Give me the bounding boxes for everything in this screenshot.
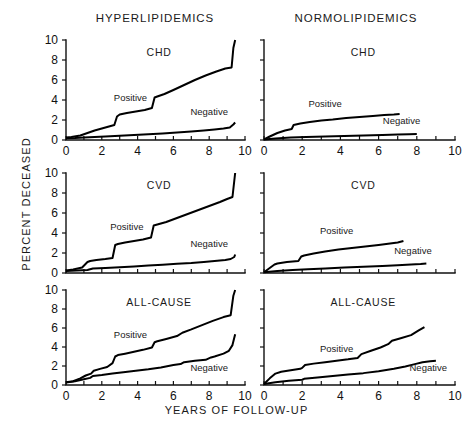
panel-title: ALL-CAUSE [126, 296, 192, 308]
y-tick-label: 6 [51, 321, 58, 335]
x-tick-label: 10 [448, 144, 462, 158]
x-tick-label: 8 [413, 389, 420, 403]
panel-hyperlipidemics-chd: 02468100246810CHDPositiveNegative [45, 33, 252, 158]
curve-negative [66, 334, 235, 382]
y-tick-label: 0 [51, 266, 58, 280]
curve-negative [66, 255, 235, 272]
x-tick-label: 6 [375, 389, 382, 403]
y-tick-label: 0 [51, 378, 58, 392]
x-tick-label: 2 [98, 389, 105, 403]
x-tick-label: 4 [134, 144, 141, 158]
series-label-positive: Positive [308, 98, 341, 109]
y-tick-label: 4 [51, 340, 58, 354]
x-tick-label: 2 [299, 389, 306, 403]
x-tick-label: 0 [261, 389, 268, 403]
series-label-positive: Positive [114, 92, 147, 103]
y-tick-label: 4 [51, 93, 58, 107]
series-label-negative: Negative [410, 362, 448, 373]
x-tick-label: 6 [170, 144, 177, 158]
series-label-positive: Positive [114, 329, 147, 340]
series-label-negative: Negative [190, 362, 228, 373]
x-tick-label: 0 [63, 144, 70, 158]
x-tick-label: 4 [134, 389, 141, 403]
y-tick-label: 2 [51, 113, 58, 127]
x-tick-label: 2 [299, 144, 306, 158]
curve-negative [264, 264, 426, 273]
plot-surface: 02468100246810CHDPositiveNegative0246810… [0, 0, 473, 432]
x-tick-label: 0 [261, 144, 268, 158]
panel-normolipidemics-all-cause: 0246810ALL-CAUSEPositiveNegative [260, 290, 462, 403]
x-tick-label: 8 [206, 144, 213, 158]
y-tick-label: 10 [45, 166, 59, 180]
y-tick-label: 6 [51, 73, 58, 87]
x-tick-label: 4 [337, 144, 344, 158]
y-tick-label: 8 [51, 186, 58, 200]
x-tick-label: 2 [98, 144, 105, 158]
series-label-negative: Negative [190, 238, 228, 249]
y-tick-label: 6 [51, 206, 58, 220]
x-tick-label: 6 [375, 144, 382, 158]
y-tick-label: 2 [51, 246, 58, 260]
series-label-positive: Positive [110, 221, 143, 232]
x-tick-label: 0 [63, 389, 70, 403]
panel-normolipidemics-chd: 0246810CHDPositiveNegative [260, 40, 462, 158]
y-tick-label: 2 [51, 359, 58, 373]
x-tick-label: 8 [206, 389, 213, 403]
curve-negative [66, 123, 235, 139]
series-label-negative: Negative [383, 115, 421, 126]
panel-title: CHD [351, 46, 376, 58]
y-tick-label: 10 [45, 33, 59, 47]
panel-title: CHD [147, 46, 172, 58]
x-tick-label: 10 [448, 389, 462, 403]
x-tick-label: 8 [413, 144, 420, 158]
series-label-positive: Positive [320, 343, 353, 354]
y-tick-label: 4 [51, 226, 58, 240]
x-tick-label: 6 [170, 389, 177, 403]
panel-hyperlipidemics-all-cause: 02468100246810ALL-CAUSEPositiveNegative [45, 283, 252, 403]
y-tick-label: 0 [51, 133, 58, 147]
y-tick-label: 8 [51, 53, 58, 67]
panel-normolipidemics-cvd: CVDPositiveNegative [260, 173, 455, 273]
panel-title: CVD [147, 179, 172, 191]
panel-title: ALL-CAUSE [331, 296, 397, 308]
panel-title: CVD [351, 179, 376, 191]
y-tick-label: 8 [51, 302, 58, 316]
series-label-negative: Negative [394, 245, 432, 256]
x-tick-label: 10 [238, 389, 252, 403]
panel-hyperlipidemics-cvd: 0246810CVDPositiveNegative [45, 166, 245, 280]
series-label-negative: Negative [190, 106, 228, 117]
y-tick-label: 10 [45, 283, 59, 297]
kaplan-meier-mortality-figure: HYPERLIPIDEMICS NORMOLIPIDEMICS PERCENT … [0, 0, 473, 432]
x-tick-label: 4 [337, 389, 344, 403]
x-tick-label: 10 [238, 144, 252, 158]
series-label-positive: Positive [320, 225, 353, 236]
